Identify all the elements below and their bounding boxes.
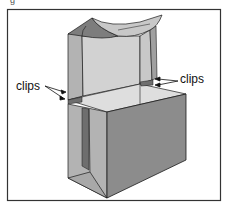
box-assembly-diagram bbox=[0, 0, 225, 206]
clips-label-left: clips bbox=[16, 80, 40, 92]
clips-label-right: clips bbox=[180, 73, 204, 85]
lower-left-slot bbox=[82, 108, 89, 170]
upper-left-strip bbox=[68, 28, 83, 100]
